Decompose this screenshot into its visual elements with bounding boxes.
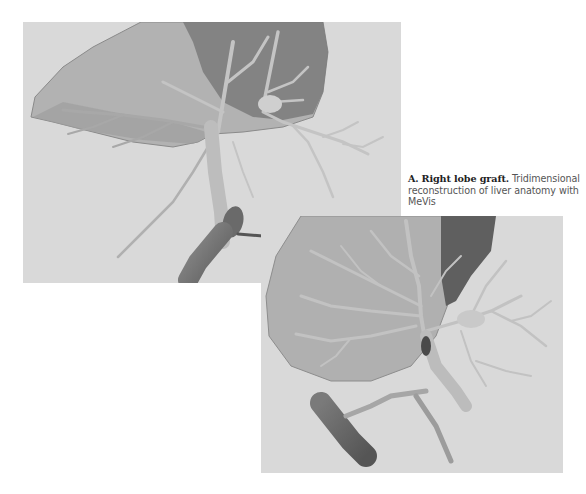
caption-label: A. — [408, 173, 419, 184]
dark-vessel-segment — [421, 336, 431, 356]
vessel-stub — [238, 234, 263, 236]
caption-title: Right lobe graft. — [422, 173, 509, 184]
figure-panel-b — [261, 216, 563, 473]
liver-reconstruction-image-b — [261, 216, 563, 473]
figure-caption: A. Right lobe graft. Tridimensional reco… — [408, 173, 586, 208]
portal-bifurcation — [258, 95, 282, 113]
portal-bifurcation — [457, 310, 485, 328]
